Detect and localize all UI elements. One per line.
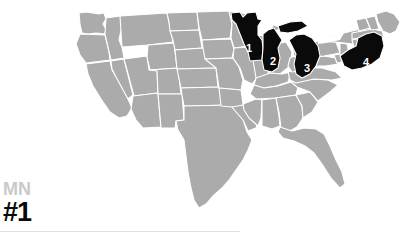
state-washington[interactable]	[79, 12, 106, 34]
state-iowa[interactable]	[202, 39, 234, 59]
bottom-divider	[0, 231, 240, 232]
state-north-dakota[interactable]	[167, 12, 199, 31]
map-screenshot: 1 2 3 4 MN #1	[0, 0, 415, 237]
legend-state-abbreviation: MN	[3, 180, 122, 198]
state-minnesota-base[interactable]	[197, 11, 232, 40]
state-montana[interactable]	[120, 13, 173, 47]
state-wyoming[interactable]	[147, 43, 177, 70]
state-texas[interactable]	[176, 105, 252, 208]
map-states-base	[76, 11, 400, 208]
state-oregon[interactable]	[76, 34, 110, 63]
state-arizona[interactable]	[131, 93, 161, 128]
state-south-dakota[interactable]	[170, 30, 202, 50]
state-kansas[interactable]	[177, 68, 218, 88]
state-florida[interactable]	[278, 127, 345, 188]
legend: MN #1	[2, 180, 122, 225]
legend-rank-value: #1	[3, 199, 122, 225]
